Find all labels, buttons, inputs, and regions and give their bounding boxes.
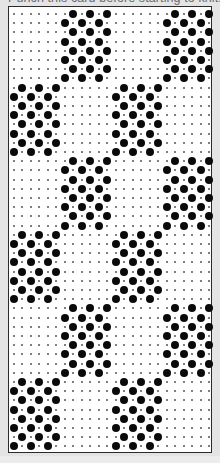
guide-dot bbox=[64, 50, 66, 52]
punch-hole bbox=[10, 277, 18, 285]
punch-hole bbox=[103, 10, 111, 18]
punch-hole bbox=[205, 47, 213, 55]
punch-hole bbox=[18, 396, 26, 404]
punch-hole bbox=[27, 258, 35, 266]
guide-dot bbox=[123, 363, 125, 365]
guide-dot bbox=[183, 160, 185, 162]
guide-dot bbox=[38, 280, 40, 282]
punch-hole bbox=[180, 38, 188, 46]
guide-dot bbox=[55, 50, 57, 52]
punch-hole bbox=[78, 56, 86, 64]
punch-hole bbox=[188, 341, 196, 349]
guide-dot bbox=[174, 105, 176, 107]
guide-dot bbox=[30, 197, 32, 199]
guide-dot bbox=[149, 188, 151, 190]
guide-dot bbox=[21, 243, 23, 245]
guide-dot bbox=[123, 160, 125, 162]
punch-hole bbox=[52, 286, 60, 294]
punch-hole bbox=[27, 442, 35, 450]
punch-hole bbox=[86, 176, 94, 184]
guide-dot bbox=[81, 105, 83, 107]
guide-dot bbox=[38, 77, 40, 79]
guide-dot bbox=[183, 50, 185, 52]
punch-hole bbox=[171, 176, 179, 184]
punch-hole bbox=[69, 341, 77, 349]
guide-dot bbox=[98, 326, 100, 328]
punch-hole bbox=[35, 286, 43, 294]
punch-hole bbox=[61, 369, 69, 377]
guide-dot bbox=[13, 188, 15, 190]
guide-dot bbox=[157, 261, 159, 263]
guide-dot bbox=[72, 399, 74, 401]
guide-dot bbox=[132, 105, 134, 107]
guide-dot bbox=[208, 133, 210, 135]
punch-hole bbox=[171, 323, 179, 331]
guide-dot bbox=[47, 289, 49, 291]
guide-dot bbox=[157, 77, 159, 79]
guide-dot bbox=[13, 68, 15, 70]
guide-dot bbox=[123, 225, 125, 227]
punch-hole bbox=[171, 28, 179, 36]
guide-dot bbox=[55, 261, 57, 263]
guide-dot bbox=[200, 427, 202, 429]
guide-dot bbox=[208, 390, 210, 392]
guide-dot bbox=[13, 381, 15, 383]
punch-hole bbox=[129, 295, 137, 303]
guide-dot bbox=[81, 142, 83, 144]
punch-hole bbox=[69, 157, 77, 165]
punch-hole bbox=[95, 74, 103, 82]
guide-dot bbox=[191, 445, 193, 447]
guide-dot bbox=[140, 197, 142, 199]
guide-dot bbox=[106, 114, 108, 116]
guide-dot bbox=[98, 160, 100, 162]
guide-dot bbox=[191, 169, 193, 171]
guide-dot bbox=[81, 326, 83, 328]
guide-dot bbox=[81, 344, 83, 346]
punch-hole bbox=[78, 369, 86, 377]
guide-dot bbox=[13, 41, 15, 43]
guide-dot bbox=[30, 252, 32, 254]
guide-dot bbox=[55, 68, 57, 70]
guide-dot bbox=[72, 59, 74, 61]
guide-dot bbox=[21, 326, 23, 328]
guide-dot bbox=[166, 280, 168, 282]
guide-dot bbox=[123, 326, 125, 328]
guide-dot bbox=[47, 234, 49, 236]
guide-dot bbox=[106, 225, 108, 227]
guide-dot bbox=[149, 31, 151, 33]
guide-dot bbox=[115, 77, 117, 79]
guide-dot bbox=[157, 160, 159, 162]
guide-dot bbox=[47, 31, 49, 33]
guide-dot bbox=[64, 133, 66, 135]
guide-dot bbox=[132, 307, 134, 309]
punch-hole bbox=[137, 102, 145, 110]
punch-hole bbox=[52, 415, 60, 423]
guide-dot bbox=[30, 307, 32, 309]
punch-hole bbox=[103, 304, 111, 312]
guide-dot bbox=[30, 335, 32, 337]
guide-dot bbox=[98, 114, 100, 116]
punch-hole bbox=[129, 93, 137, 101]
guide-dot bbox=[64, 390, 66, 392]
punch-hole bbox=[112, 148, 120, 156]
guide-dot bbox=[55, 41, 57, 43]
guide-dot bbox=[89, 169, 91, 171]
guide-dot bbox=[106, 105, 108, 107]
guide-dot bbox=[98, 427, 100, 429]
guide-dot bbox=[81, 68, 83, 70]
guide-dot bbox=[55, 133, 57, 135]
guide-dot bbox=[132, 436, 134, 438]
guide-dot bbox=[200, 289, 202, 291]
guide-dot bbox=[200, 280, 202, 282]
guide-dot bbox=[149, 13, 151, 15]
guide-dot bbox=[64, 344, 66, 346]
guide-dot bbox=[106, 289, 108, 291]
guide-dot bbox=[166, 123, 168, 125]
guide-dot bbox=[183, 123, 185, 125]
guide-dot bbox=[208, 335, 210, 337]
guide-dot bbox=[123, 77, 125, 79]
punch-hole bbox=[137, 396, 145, 404]
guide-dot bbox=[115, 381, 117, 383]
guide-dot bbox=[115, 50, 117, 52]
guide-dot bbox=[191, 114, 193, 116]
